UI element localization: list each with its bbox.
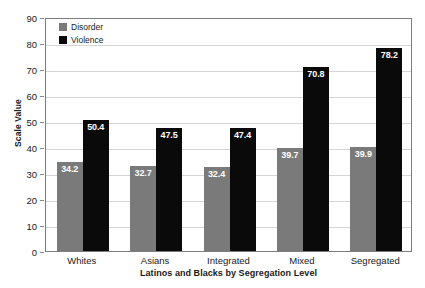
x-tick-label: Segregated — [351, 255, 400, 266]
bars-layer: 34.250.432.747.532.447.439.770.839.978.2 — [46, 19, 411, 251]
y-tick-label: 30 — [26, 169, 37, 180]
y-tick-mark — [40, 226, 44, 227]
legend-swatch-violence-icon — [59, 36, 67, 44]
bar-value-label: 32.7 — [130, 168, 156, 178]
chart-legend: Disorder Violence — [59, 21, 103, 45]
bar-disorder-asians: 32.7 — [130, 166, 156, 251]
bar-disorder-segregated: 39.9 — [350, 147, 376, 251]
x-tick-label: Whites — [67, 255, 96, 266]
legend-label-violence: Violence — [71, 35, 103, 45]
y-tick-label: 70 — [26, 65, 37, 76]
y-tick-mark — [40, 70, 44, 71]
bar-violence-segregated: 78.2 — [376, 48, 402, 251]
y-tick-label: 40 — [26, 143, 37, 154]
bar-violence-whites: 50.4 — [83, 120, 109, 251]
y-tick-label: 50 — [26, 117, 37, 128]
bar-value-label: 32.4 — [204, 169, 230, 179]
y-tick-label: 80 — [26, 39, 37, 50]
bar-value-label: 70.8 — [303, 69, 329, 79]
legend-label-disorder: Disorder — [71, 22, 103, 32]
bar-disorder-whites: 34.2 — [57, 162, 83, 251]
bar-disorder-integrated: 32.4 — [204, 167, 230, 251]
y-tick-label: 60 — [26, 91, 37, 102]
y-tick-mark — [40, 200, 44, 201]
legend-swatch-disorder-icon — [59, 23, 67, 31]
bar-value-label: 47.5 — [156, 130, 182, 140]
bar-violence-mixed: 70.8 — [303, 67, 329, 251]
y-tick-mark — [40, 174, 44, 175]
y-tick-mark — [40, 96, 44, 97]
bar-value-label: 39.9 — [350, 149, 376, 159]
bar-disorder-mixed: 39.7 — [277, 148, 303, 251]
bar-value-label: 47.4 — [230, 130, 256, 140]
bar-value-label: 34.2 — [57, 164, 83, 174]
y-tick-label: 20 — [26, 195, 37, 206]
plot-area: 34.250.432.747.532.447.439.770.839.978.2… — [45, 18, 412, 252]
y-axis-ticks: 0102030405060708090 — [0, 0, 44, 288]
y-tick-label: 0 — [32, 247, 37, 258]
legend-item-violence: Violence — [59, 34, 103, 45]
x-axis-title: Latinos and Blacks by Segregation Level — [45, 268, 412, 278]
bar-violence-integrated: 47.4 — [230, 128, 256, 251]
bar-chart: Scale Value 0102030405060708090 34.250.4… — [0, 0, 425, 288]
y-tick-mark — [40, 148, 44, 149]
bar-value-label: 50.4 — [83, 122, 109, 132]
y-tick-label: 90 — [26, 13, 37, 24]
bar-violence-asians: 47.5 — [156, 128, 182, 252]
y-tick-mark — [40, 122, 44, 123]
x-tick-label: Integrated — [207, 255, 250, 266]
y-tick-mark — [40, 252, 44, 253]
x-tick-label: Asians — [141, 255, 170, 266]
y-tick-label: 10 — [26, 221, 37, 232]
bar-value-label: 78.2 — [376, 50, 402, 60]
x-tick-label: Mixed — [289, 255, 314, 266]
y-tick-mark — [40, 44, 44, 45]
legend-item-disorder: Disorder — [59, 21, 103, 32]
bar-value-label: 39.7 — [277, 150, 303, 160]
y-tick-mark — [40, 18, 44, 19]
